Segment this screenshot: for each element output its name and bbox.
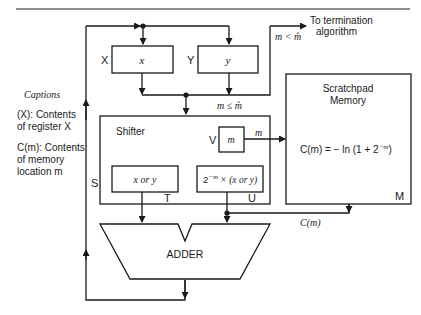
termination-label-1: To termination — [310, 15, 373, 26]
shifter-title: Shifter — [116, 126, 146, 137]
m-signal-label: m — [255, 127, 262, 138]
captions: Captions (X): Contents of register X C(m… — [17, 89, 85, 177]
shifter: Shifter S V m x or y T 2−m × (x or y) U — [91, 116, 270, 204]
caption-2c: location m — [17, 166, 63, 177]
adder-label: ADDER — [167, 248, 204, 260]
shifter-out-u-label: U — [248, 192, 256, 204]
captions-title: Captions — [24, 89, 60, 100]
register-v-content: m — [227, 134, 234, 145]
register-y: Y y — [187, 46, 258, 73]
register-y-content: y — [225, 54, 231, 66]
scratchpad-memory: Scratchpad Memory C(m) = − ln (1 + 2−m) … — [286, 74, 411, 204]
memory-corner-label: M — [395, 190, 404, 202]
register-x-label: X — [101, 54, 109, 66]
termination-label-2: algorithm — [316, 26, 357, 37]
cm-signal-label: C(m) — [300, 217, 321, 229]
caption-1b: of register X — [17, 121, 71, 132]
cm-junction-dot — [224, 210, 229, 215]
shifter-out-t-content: x or y — [133, 174, 157, 185]
register-x-content: x — [139, 54, 145, 66]
shifter-side-label: S — [91, 177, 98, 189]
memory-title-1: Scratchpad — [323, 83, 374, 94]
register-v-label: V — [209, 134, 217, 146]
condition-le: m ≤ m̂ — [217, 100, 242, 111]
shifter-out-t-label: T — [164, 192, 171, 204]
register-x: X x — [101, 46, 173, 73]
memory-title-2: Memory — [330, 95, 366, 106]
register-y-label: Y — [187, 54, 195, 66]
caption-2a: C(m): Contents — [17, 142, 85, 153]
caption-1a: (X): Contents — [17, 109, 76, 120]
memory-formula: C(m) = − ln (1 + 2−m) — [300, 143, 392, 155]
caption-2b: of memory — [17, 154, 64, 165]
adder: ADDER — [100, 224, 270, 279]
condition-lt: m < m̂ — [275, 31, 301, 42]
diagram-canvas: X x Y y To termination algorithm m < m̂ … — [0, 0, 421, 315]
